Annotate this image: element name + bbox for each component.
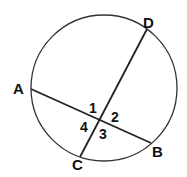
point-label-c: C bbox=[72, 156, 83, 173]
angle-label-4: 4 bbox=[80, 119, 88, 135]
chord-cd bbox=[80, 29, 147, 157]
chords-diagram: A B C D 1 2 3 4 bbox=[0, 0, 187, 177]
point-label-d: D bbox=[143, 14, 154, 31]
point-label-a: A bbox=[13, 80, 24, 97]
angle-label-2: 2 bbox=[111, 109, 119, 125]
angle-label-1: 1 bbox=[89, 100, 97, 116]
angle-label-3: 3 bbox=[99, 126, 107, 142]
point-label-b: B bbox=[152, 143, 163, 160]
